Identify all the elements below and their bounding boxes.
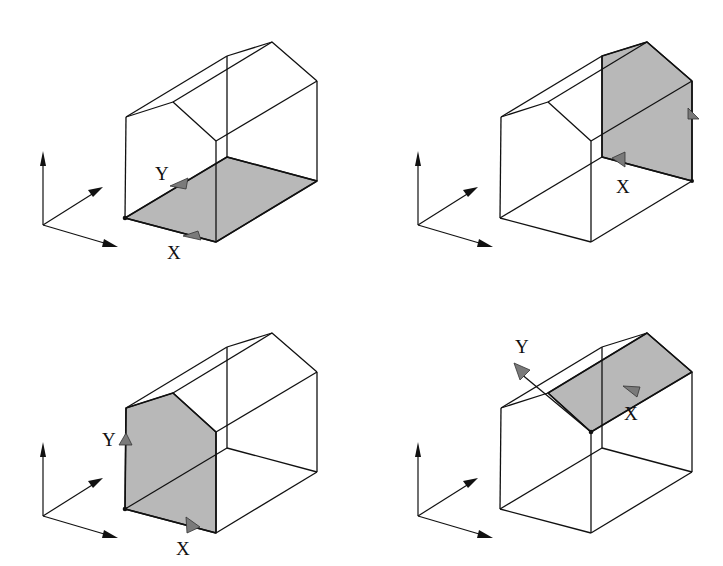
origin-dot	[123, 507, 128, 512]
y-label: Y	[515, 336, 529, 357]
x-label: X	[624, 403, 638, 424]
x-label: X	[167, 242, 181, 263]
world-axes-icon	[415, 151, 493, 247]
world-axes-icon	[415, 442, 493, 538]
y-direction-arrow-icon	[514, 363, 530, 380]
highlighted-roof-face	[548, 333, 692, 432]
world-axes-icon	[40, 151, 118, 247]
origin-dot	[123, 216, 128, 221]
y-label: Y	[155, 163, 169, 184]
x-label: X	[176, 538, 190, 559]
y-direction-arrow-icon	[170, 178, 188, 189]
highlighted-floor-face	[125, 157, 317, 242]
panel-floor: Y X	[40, 42, 317, 263]
panel-roof: Y X	[415, 333, 692, 538]
x-label: X	[616, 176, 630, 197]
y-label: Y	[102, 429, 116, 450]
panel-front-wall: Y X	[40, 333, 317, 559]
y-direction-arrow-icon	[688, 108, 699, 119]
origin-dot	[690, 179, 694, 183]
panel-back-wall: X	[415, 42, 699, 247]
world-axes-icon	[40, 442, 118, 538]
figure-canvas: Y X X Y X Y X	[0, 0, 723, 566]
